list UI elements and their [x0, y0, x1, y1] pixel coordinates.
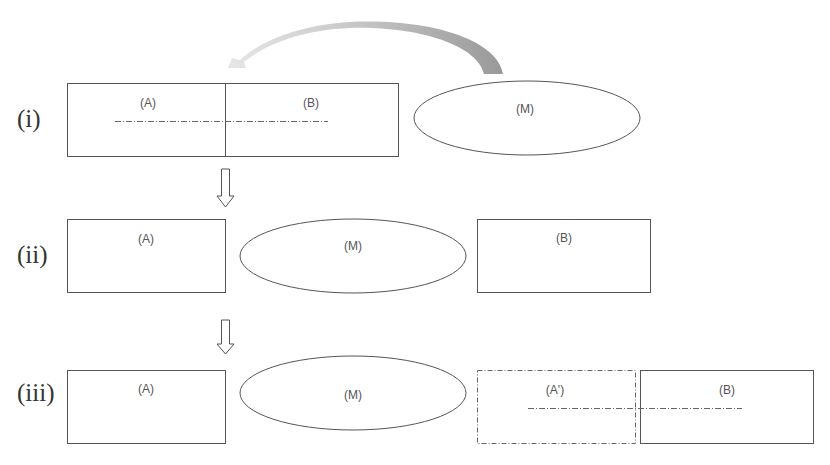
ellipse-m — [414, 81, 640, 155]
box-label-b: (B) — [719, 383, 735, 397]
row-label-i: (i) — [17, 105, 41, 133]
box-label-a: (A) — [138, 232, 154, 246]
down-arrow-icon — [217, 320, 234, 354]
box-label-a: (A) — [140, 96, 156, 110]
box-label-b: (B) — [556, 231, 572, 245]
box-label-a-prime: (A') — [546, 383, 564, 397]
ellipse-m — [240, 219, 466, 293]
curved-transfer-arrow — [228, 22, 503, 74]
down-arrow-icon — [217, 169, 234, 207]
box-a-prime-dashed — [478, 371, 636, 444]
box-a — [68, 220, 226, 293]
ellipse-label-m: (M) — [344, 388, 362, 402]
row-label-iii: (iii) — [17, 379, 55, 407]
ellipse-label-m: (M) — [344, 239, 362, 253]
diagram-canvas: (i) (A) (B) (M) (ii) (A) (M) (B) (iii) (… — [0, 0, 830, 465]
box-ab-combined — [68, 84, 399, 157]
ellipse-label-m: (M) — [516, 102, 534, 116]
box-label-b: (B) — [303, 96, 319, 110]
box-label-a: (A) — [138, 382, 154, 396]
row-label-ii: (ii) — [17, 241, 48, 269]
box-b — [641, 371, 814, 444]
